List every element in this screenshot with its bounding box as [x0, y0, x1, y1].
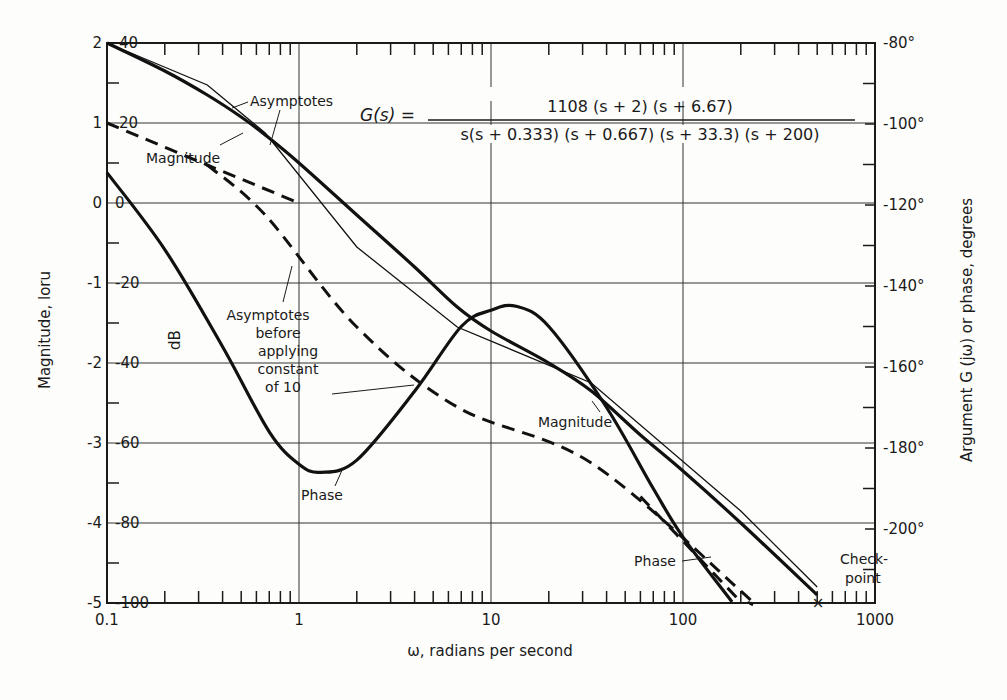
tick-label-right: -100° — [883, 115, 925, 133]
formula-denominator: s(s + 0.333) (s + 0.667) (s + 33.3) (s +… — [461, 125, 820, 144]
annotation-magnitude-2: Magnitude — [538, 414, 612, 430]
annotation-arrow — [592, 401, 600, 412]
annotation-checkpoint-2: point — [845, 570, 881, 586]
tick-label-loru: -2 — [87, 354, 102, 372]
tick-label-db: 20 — [119, 114, 138, 132]
tick-label-right: -160° — [883, 358, 925, 376]
tick-label-right: -120° — [883, 196, 925, 214]
tick-label-db: -80 — [115, 514, 140, 532]
tick-label-db: -100 — [115, 594, 149, 612]
tick-label-loru: -1 — [87, 274, 102, 292]
annotation-asymptotes: Asymptotes — [250, 93, 333, 109]
tick-label-x: 100 — [669, 611, 698, 629]
tick-label-right: -180° — [883, 439, 925, 457]
tick-label-x: 1 — [294, 611, 304, 629]
tick-label-right: -80° — [883, 34, 915, 52]
annotation-phase-high: Phase — [634, 553, 676, 569]
tick-label-db: 0 — [115, 194, 125, 212]
tick-label-x: 10 — [481, 611, 500, 629]
y-axis-label-db: dB — [166, 330, 184, 350]
annotation-arrow — [332, 385, 414, 394]
series-phase-asymptote — [640, 497, 740, 602]
tick-label-loru: 2 — [92, 34, 102, 52]
bode-plot: -80°-100°-120°-140°-160°-180°-200°240120… — [0, 0, 1007, 700]
tick-label-db: -60 — [115, 434, 140, 452]
annotation-before-4: constant — [258, 361, 319, 377]
tick-label-loru: -3 — [87, 434, 102, 452]
annotation-before-5: of 10 — [265, 379, 301, 395]
tick-label-db: 40 — [119, 34, 138, 52]
transfer-function: G(s) = 1108 (s + 2) (s + 6.67) s(s + 0.3… — [360, 87, 865, 144]
tick-label-x: 1000 — [856, 611, 894, 629]
tick-label-db: -40 — [115, 354, 140, 372]
annotation-phase-low: Phase — [301, 487, 343, 503]
formula-numerator: 1108 (s + 2) (s + 6.67) — [547, 97, 733, 116]
y-axis-label-right: Argument G (jω) or phase, degrees — [958, 198, 976, 462]
annotation-arrow — [283, 266, 292, 302]
tick-label-right: -200° — [883, 520, 925, 538]
tick-label-loru: -4 — [87, 514, 102, 532]
annotation-magnitude: Magnitude — [146, 150, 220, 166]
checkpoint-mark: × — [812, 594, 825, 612]
y-axis-label-left: Magnitude, loru — [36, 271, 54, 389]
annotation-arrow — [220, 133, 243, 145]
series-phase-exact — [107, 173, 732, 602]
tick-label-loru: 1 — [92, 114, 102, 132]
tick-label-loru: -5 — [87, 594, 102, 612]
annotation-before-1: Asymptotes — [226, 307, 309, 323]
x-axis-label: ω, radians per second — [407, 642, 573, 660]
annotation-arrow — [270, 110, 280, 145]
tick-label-right: -140° — [883, 277, 925, 295]
tick-label-loru: 0 — [92, 194, 102, 212]
tick-label-x: 0.1 — [95, 611, 119, 629]
annotation-before-2: before — [255, 325, 300, 341]
annotation-arrow — [232, 102, 248, 108]
annotation-checkpoint-1: Check- — [840, 551, 888, 567]
formula-lhs: G(s) = — [360, 105, 415, 125]
annotation-before-3: applying — [258, 343, 318, 359]
tick-label-db: -20 — [115, 274, 140, 292]
